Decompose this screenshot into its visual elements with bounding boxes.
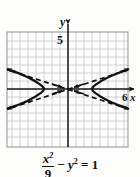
y-exponent: 2 [74, 156, 78, 165]
fraction-x-squared-over-9: x2 9 [42, 152, 55, 177]
x-tick-label-6: 6 [122, 91, 128, 103]
equation-caption: x2 9 − y2 = 1 [0, 150, 140, 177]
y-tick-label-5: 5 [57, 33, 63, 47]
equation-remainder: − y2 = 1 [54, 158, 98, 171]
fraction-denominator: 9 [42, 167, 55, 177]
fraction-numerator: x2 [42, 152, 55, 165]
x-axis-label: x [129, 91, 136, 103]
equals-sign: = [81, 157, 88, 172]
y-axis-label: y [58, 15, 66, 29]
minus-sign: − [57, 157, 64, 172]
right-hand-side: 1 [92, 157, 99, 172]
